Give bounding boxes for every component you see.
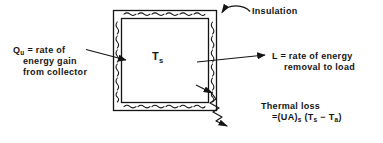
energy-gain-line3: from collector <box>13 67 87 78</box>
tank-outer-wall <box>114 11 217 111</box>
eq-sub-a: a <box>334 116 338 123</box>
load-line1: L = rate of energy <box>272 51 355 62</box>
thermal-loss-label: Thermal loss =(UA)s (Ts − Ta) <box>261 101 342 123</box>
q-input-arrow <box>86 50 126 61</box>
eq-end: ) <box>338 112 341 122</box>
eq-sub-s1: s <box>298 116 302 123</box>
eq-minus: − T <box>318 112 335 122</box>
insulation-hatch-right <box>211 22 214 102</box>
load-removal-label: L = rate of energy removal to load <box>272 51 355 73</box>
thermal-storage-diagram: Ts Insulation Qu = rate of energy gain f… <box>0 0 383 143</box>
eq-sub-s2: s <box>314 116 318 123</box>
qu-line1-text: = rate of <box>27 45 65 55</box>
insulation-text: Insulation <box>252 6 298 16</box>
insulation-label: Insulation <box>252 6 298 17</box>
load-output-arrow <box>197 55 265 62</box>
insulation-hatch-left <box>116 22 119 102</box>
thermal-loss-equation: =(UA)s (Ts − Ta) <box>261 112 342 123</box>
thermal-loss-corner-tick <box>196 85 212 93</box>
insulation-hatch-bottom <box>124 105 205 108</box>
qu-subscript: u <box>20 49 24 56</box>
tank-inner-wall <box>122 19 209 103</box>
insulation-hatch-top <box>124 13 205 16</box>
thermal-loss-line1: Thermal loss <box>261 101 342 112</box>
eq-prefix: =(UA) <box>272 112 298 122</box>
energy-gain-line2: energy gain <box>13 56 87 67</box>
insulation-leader <box>222 6 250 13</box>
thermal-loss-leader <box>210 91 227 126</box>
load-line2: removal to load <box>272 62 355 73</box>
energy-gain-line1: Qu = rate of <box>13 45 87 56</box>
energy-gain-label: Qu = rate of energy gain from collector <box>13 45 87 78</box>
eq-mid: (T <box>302 112 314 122</box>
ts-subscript: s <box>159 56 163 65</box>
ts-symbol: T <box>152 50 159 62</box>
tank-temperature-label: Ts <box>152 51 164 62</box>
